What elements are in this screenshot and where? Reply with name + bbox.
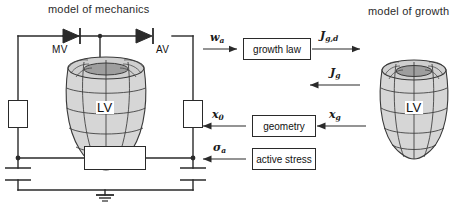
signal-w-a-sub: a xyxy=(219,36,224,45)
mitral-valve-diode-icon xyxy=(63,28,80,44)
node-left xyxy=(16,156,21,161)
block-active-stress[interactable]: active stress xyxy=(252,148,316,170)
ground-icon xyxy=(96,195,114,201)
signal-label-sigma-a: σa xyxy=(213,142,226,154)
signal-label-J-g: Jg xyxy=(330,67,340,79)
block-active-stress-label: active stress xyxy=(256,154,312,165)
block-geometry[interactable]: geometry xyxy=(252,115,316,137)
signal-J-g-sub: g xyxy=(335,71,340,80)
signal-label-J-g-d: Jg,d xyxy=(320,30,338,42)
signal-label-x-g: xg xyxy=(329,109,341,121)
right-resistor xyxy=(183,100,203,128)
signal-J-g-d-sub: g,d xyxy=(325,34,338,43)
signal-x-0-sub: 0 xyxy=(219,113,224,122)
signal-sigma-a-base: σ xyxy=(213,141,221,154)
right-capacitor xyxy=(180,168,206,180)
node-top-centre xyxy=(98,34,102,38)
aortic-valve-label: AV xyxy=(156,45,169,55)
left-capacitor xyxy=(5,168,31,180)
block-growth-law[interactable]: growth law xyxy=(243,38,311,60)
signal-x-g-sub: g xyxy=(336,113,341,122)
lv-label-growth: LV xyxy=(405,101,423,114)
signal-label-x-0: x0 xyxy=(212,109,224,121)
signal-sigma-a-sub: a xyxy=(221,146,226,155)
figure-root: model of mechanics model of growth xyxy=(0,0,466,206)
lv-label-mechanics: LV xyxy=(96,101,114,114)
circuit-schematic xyxy=(0,0,466,206)
block-geometry-label: geometry xyxy=(263,121,305,132)
left-resistor xyxy=(8,100,28,128)
node-right xyxy=(191,156,196,161)
aortic-valve-diode-icon xyxy=(136,28,153,44)
signal-label-w-a: wa xyxy=(210,32,224,44)
mitral-valve-label: MV xyxy=(52,45,68,55)
bottom-resistor xyxy=(84,146,146,170)
block-growth-law-label: growth law xyxy=(253,44,301,55)
